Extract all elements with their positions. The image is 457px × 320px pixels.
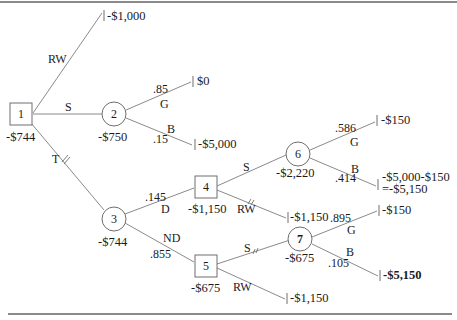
edge-label-1-t: T [52,152,60,166]
node-2-chance: 2 -$750 [98,102,127,144]
svg-text:1: 1 [18,107,24,121]
edge-label-1-s: S [65,100,72,114]
edge-1-rw [33,13,102,113]
edge-label-5-s: S [244,241,251,255]
terminal-value: $0 [197,74,210,88]
svg-text:7: 7 [297,232,303,246]
terminal-value: -$1,000 [107,9,146,23]
terminal-value: -$5,150 [383,268,422,282]
svg-text:2: 2 [111,107,117,121]
node-3-chance: 3 -$744 [98,207,128,249]
terminal-value: -$150 [382,203,411,217]
node-7-chance: 7 -$675 [285,227,314,265]
edge-label-1-rw: RW [48,52,67,66]
node-1-decision: 1 -$744 [6,103,36,144]
svg-text:-$675: -$675 [285,251,314,265]
node-5-decision: 5 -$675 [191,255,220,295]
prob-6-g: .586 [335,121,356,135]
svg-text:4: 4 [203,180,209,194]
edge-label-3-nd: ND [163,231,181,245]
edge-label-6-g: G [350,135,359,149]
svg-text:-$744: -$744 [6,130,36,144]
svg-text:-$744: -$744 [98,235,128,249]
terminal-value: -$1,150 [290,291,329,305]
terminal-value: -$5,000 [198,137,237,151]
node-4-decision: 4 -$1,150 [188,176,227,216]
edge-label-7-g: G [347,223,356,237]
svg-text:-$2,220: -$2,220 [276,166,315,180]
edge-label-4-rw: RW [237,202,256,216]
terminal-value: =-$5,150 [382,182,428,196]
terminal-value: -$150 [381,113,410,127]
edge-label-2-b: B [167,122,175,136]
svg-text:3: 3 [111,212,117,226]
svg-text:-$675: -$675 [191,281,220,295]
prob-2-g: .85 [153,82,168,96]
edge-label-5-rw: RW [233,280,252,294]
svg-text:5: 5 [203,259,209,273]
svg-text:6: 6 [295,147,301,161]
edge-label-4-s: S [243,160,250,174]
node-6-chance: 6 -$2,220 [276,142,315,180]
hatch-mark [62,155,70,164]
terminal-value: -$1,150 [290,210,329,224]
prob-2-b: .15 [153,132,168,146]
edge-1-t [31,123,104,210]
edge-label-2-g: G [160,97,169,111]
prob-6-b: .414 [335,171,356,185]
svg-text:-$1,150: -$1,150 [188,202,227,216]
edge-label-3-d: D [161,202,170,216]
prob-3-nd: .855 [150,247,171,261]
svg-text:-$750: -$750 [98,130,127,144]
decision-tree-diagram: 1 -$744 2 -$750 3 -$744 4 -$1,150 5 -$67… [0,0,457,320]
prob-7-b: .105 [328,256,349,270]
